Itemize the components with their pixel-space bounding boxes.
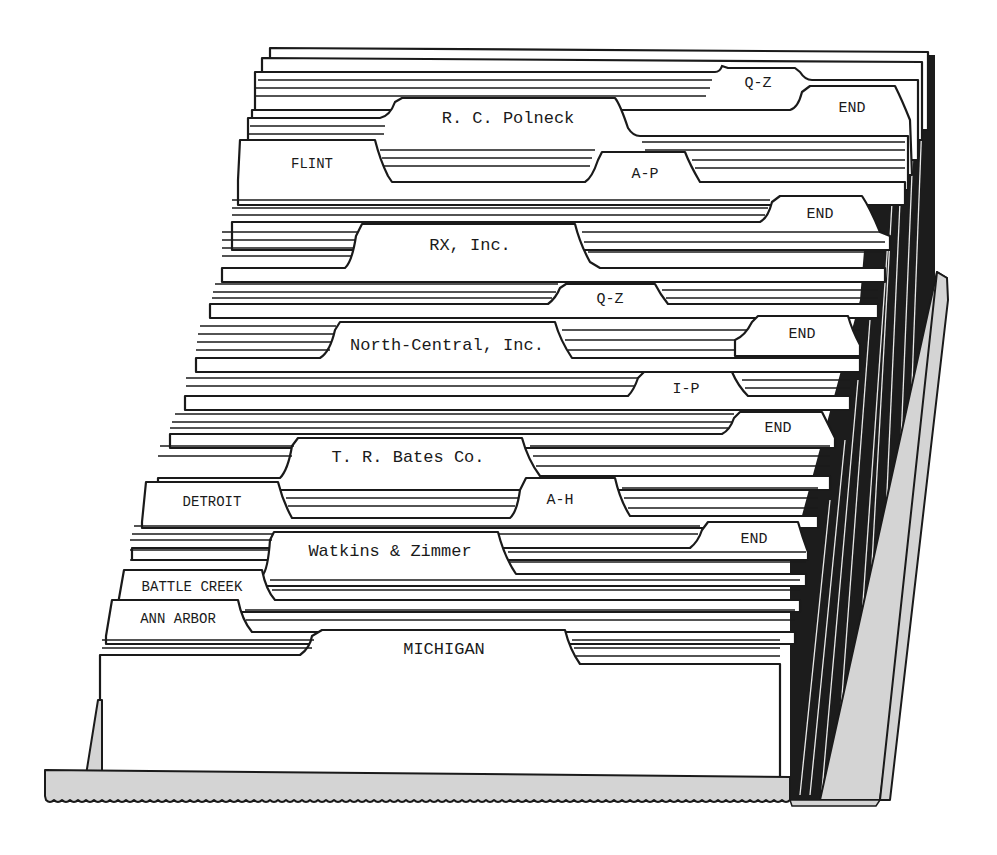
tab-label-michigan: MICHIGAN bbox=[403, 640, 485, 659]
tab-label-end-top: END bbox=[838, 100, 865, 117]
tab-label-end-5: END bbox=[740, 531, 767, 548]
tab-label-ip: I-P bbox=[672, 381, 699, 398]
card-file-drawing: Q-Z END R. C. Polneck FLINT A-P END bbox=[0, 0, 997, 855]
tab-label-ah: A-H bbox=[546, 492, 573, 509]
tab-label-qz-top: Q-Z bbox=[744, 75, 771, 92]
tab-label-end-2: END bbox=[806, 206, 833, 223]
tab-label-end-3: END bbox=[788, 326, 815, 343]
tab-label-detroit: DETROIT bbox=[183, 494, 242, 510]
tab-label-flint: FLINT bbox=[291, 156, 333, 172]
tab-label-ap: A-P bbox=[631, 166, 658, 183]
card-qz-2: Q-Z bbox=[210, 284, 878, 318]
tab-label-north-central: North-Central, Inc. bbox=[350, 336, 544, 355]
tab-label-rx: RX, Inc. bbox=[429, 236, 511, 255]
tab-label-ann-arbor: ANN ARBOR bbox=[140, 611, 216, 627]
card-file-illustration: Q-Z END R. C. Polneck FLINT A-P END bbox=[0, 0, 997, 855]
card-rx: RX, Inc. bbox=[222, 224, 885, 282]
tray-left-panel bbox=[86, 700, 102, 775]
card-end-3: END bbox=[735, 316, 860, 356]
tab-label-watkins: Watkins & Zimmer bbox=[308, 542, 471, 561]
card-michigan: MICHIGAN bbox=[100, 630, 780, 780]
tab-label-end-4: END bbox=[764, 420, 791, 437]
tab-label-polneck: R. C. Polneck bbox=[442, 109, 575, 128]
tab-label-bates: T. R. Bates Co. bbox=[331, 448, 484, 467]
tab-label-qz-2: Q-Z bbox=[596, 291, 623, 308]
tab-label-battle-creek: BATTLE CREEK bbox=[142, 579, 243, 595]
card-ip: I-P bbox=[185, 372, 850, 410]
